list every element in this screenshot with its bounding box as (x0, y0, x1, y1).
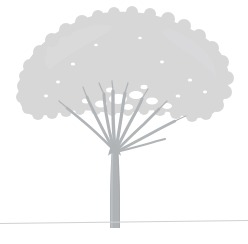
tree-scene-svg (0, 0, 248, 244)
branch-4-center-left (113, 91, 115, 150)
tree-illustration (0, 0, 248, 244)
